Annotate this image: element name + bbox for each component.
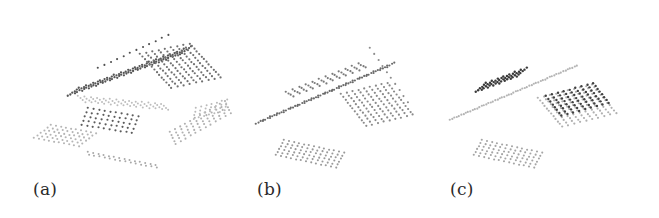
ground-patch-points — [473, 139, 544, 169]
panel-c: (c) — [430, 0, 659, 218]
ground-left-points — [33, 124, 97, 148]
panel-label-a: (a) — [33, 179, 57, 199]
panel-label-b: (b) — [257, 179, 282, 199]
panel-a: (a) — [0, 0, 240, 218]
ground-front-strip-points — [87, 151, 158, 169]
roof-edge-right-points — [369, 47, 409, 104]
point-cloud-plot-b — [220, 0, 440, 218]
ground-patch-points — [275, 139, 346, 169]
roof-plane-right-points — [139, 43, 222, 89]
ground-band-left-points — [77, 95, 169, 111]
point-cloud-figure: (a) (b) (c) — [0, 0, 659, 218]
rooftop-mid-dark-points — [81, 107, 140, 134]
panel-label-c: (c) — [450, 179, 474, 199]
panel-b: (b) — [220, 0, 440, 218]
roof-plane-right-points — [340, 82, 414, 127]
